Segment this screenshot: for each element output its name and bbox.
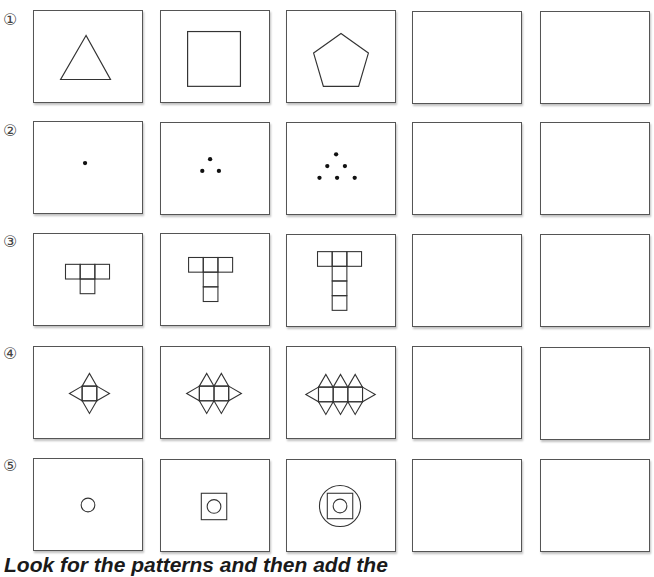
- row-label-1: ①: [3, 10, 17, 29]
- row2-box5-empty[interactable]: [540, 122, 650, 215]
- row3-box3: [286, 234, 396, 327]
- row1-box2: [160, 10, 270, 103]
- t-shape-2-icon: [161, 234, 269, 325]
- row2-box1: [33, 121, 143, 214]
- circle-in-square-icon: [161, 460, 269, 551]
- row4-box2: [160, 346, 270, 439]
- row4-box1: [33, 346, 143, 439]
- row-label-5: ⑤: [3, 456, 17, 475]
- row4-box4-empty[interactable]: [412, 346, 522, 439]
- t-shape-1-icon: [34, 234, 142, 325]
- dot-pattern-1-icon: [34, 122, 142, 213]
- row1-box3: [286, 10, 396, 103]
- square-with-triangles-1-icon: [34, 347, 142, 438]
- row1-box1: [33, 10, 143, 103]
- dot-pattern-6-icon: [287, 123, 395, 214]
- circle-icon: [34, 459, 142, 550]
- pentagon-icon: [287, 11, 395, 102]
- row3-box1: [33, 233, 143, 326]
- instruction-text: Look for the patterns and then add the: [4, 553, 388, 577]
- row1-box5-empty[interactable]: [540, 11, 650, 104]
- row3-box2: [160, 233, 270, 326]
- row5-box1: [33, 458, 143, 551]
- row3-box4-empty[interactable]: [412, 234, 522, 327]
- row2-box3: [286, 122, 396, 215]
- row-label-3: ③: [3, 232, 17, 251]
- row5-box5-empty[interactable]: [540, 459, 650, 552]
- row5-box3: [286, 459, 396, 552]
- t-shape-3-icon: [287, 235, 395, 326]
- row3-box5-empty[interactable]: [540, 234, 650, 327]
- square-with-triangles-3-icon: [287, 347, 395, 438]
- row5-box4-empty[interactable]: [412, 459, 522, 552]
- circle-in-square-in-circle-icon: [287, 460, 395, 551]
- row2-box4-empty[interactable]: [412, 122, 522, 215]
- row1-box4-empty[interactable]: [412, 11, 522, 104]
- triangle-icon: [34, 11, 142, 102]
- row-label-2: ②: [3, 121, 17, 140]
- row4-box3: [286, 346, 396, 439]
- square-icon: [161, 11, 269, 102]
- square-with-triangles-2-icon: [161, 347, 269, 438]
- row5-box2: [160, 459, 270, 552]
- row4-box5-empty[interactable]: [540, 347, 650, 440]
- row-label-4: ④: [3, 344, 17, 363]
- row2-box2: [160, 122, 270, 215]
- dot-pattern-3-icon: [161, 123, 269, 214]
